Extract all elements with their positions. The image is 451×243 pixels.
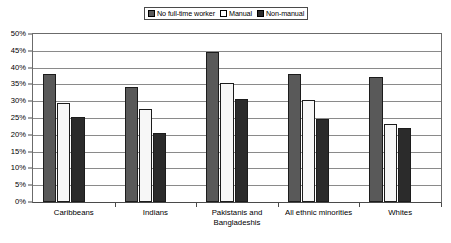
legend-item[interactable]: No full-time worker <box>148 10 215 18</box>
bar[interactable] <box>139 109 152 202</box>
y-axis-tick-label: 30% <box>11 97 26 105</box>
x-axis-category-label-line: Indians <box>143 208 168 217</box>
y-axis-tick-label: 35% <box>11 80 26 88</box>
x-axis-category-label-line: Bangladeshis <box>212 218 263 228</box>
bar-group <box>33 34 115 202</box>
legend-swatch-icon <box>220 10 227 17</box>
bar-group <box>196 34 278 202</box>
x-axis-category-label: Caribbeans <box>54 208 94 218</box>
x-axis-tick-mark <box>278 203 279 207</box>
legend-swatch-icon <box>257 10 264 17</box>
x-axis-tick-mark <box>115 203 116 207</box>
bar[interactable] <box>369 77 382 202</box>
bar-group <box>359 34 441 202</box>
bar[interactable] <box>153 133 166 202</box>
bar[interactable] <box>398 128 411 202</box>
bar[interactable] <box>71 117 84 202</box>
y-axis-tick-label: 40% <box>11 64 26 72</box>
bar[interactable] <box>384 124 397 202</box>
x-axis-category-label: Indians <box>143 208 168 218</box>
x-axis-category-label: All ethnic minorities <box>285 208 352 218</box>
y-axis-tick-label: 10% <box>11 164 26 172</box>
bar[interactable] <box>206 52 219 202</box>
legend-item-label: Manual <box>229 10 252 18</box>
bar-group <box>115 34 197 202</box>
x-axis-tick-mark <box>359 203 360 207</box>
y-axis-tick-label: 15% <box>11 148 26 156</box>
legend-item[interactable]: Manual <box>220 10 252 18</box>
bar[interactable] <box>235 99 248 202</box>
legend-item[interactable]: Non-manual <box>257 10 304 18</box>
x-axis-tick-mark <box>196 203 197 207</box>
chart-legend: No full-time workerManualNon-manual <box>144 7 308 20</box>
x-axis: CaribbeansIndiansPakistanis andBanglades… <box>33 208 441 242</box>
y-axis-tick-label: 50% <box>11 30 26 38</box>
bar[interactable] <box>43 74 56 202</box>
bar-chart: No full-time workerManualNon-manual 50%4… <box>0 0 451 243</box>
bar[interactable] <box>125 87 138 202</box>
y-axis-tick-label: 20% <box>11 131 26 139</box>
x-axis-category-label-line: All ethnic minorities <box>285 208 352 217</box>
bar[interactable] <box>302 100 315 202</box>
y-axis-tick-label: 5% <box>15 181 26 189</box>
legend-item-label: Non-manual <box>266 10 304 18</box>
bar-group <box>278 34 360 202</box>
y-axis-tick-label: 25% <box>11 114 26 122</box>
legend-swatch-icon <box>148 10 155 17</box>
bar[interactable] <box>57 103 70 202</box>
bar[interactable] <box>288 74 301 202</box>
x-axis-category-label-line: Pakistanis and <box>212 208 263 217</box>
legend-item-label: No full-time worker <box>157 10 215 18</box>
x-axis-category-label: Whites <box>388 208 412 218</box>
x-axis-category-label: Pakistanis andBangladeshis <box>212 208 263 228</box>
y-axis-tick-label: 0% <box>15 198 26 206</box>
bar[interactable] <box>316 119 329 202</box>
x-axis-category-label-line: Caribbeans <box>54 208 94 217</box>
bars-layer <box>33 34 441 202</box>
y-axis: 50%45%40%35%30%25%20%15%10%5%0% <box>0 33 29 203</box>
bar[interactable] <box>220 83 233 202</box>
y-axis-tick-label: 45% <box>11 47 26 55</box>
x-axis-tick-mark <box>441 203 442 207</box>
x-axis-category-label-line: Whites <box>388 208 412 217</box>
